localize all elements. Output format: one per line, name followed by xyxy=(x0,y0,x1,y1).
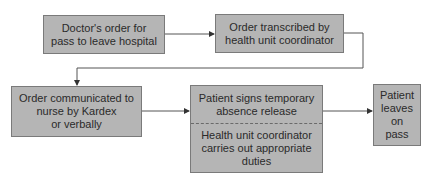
node-order-transcribed: Order transcribed by health unit coordin… xyxy=(215,14,344,53)
node-label: Doctor's order for pass to leave hospita… xyxy=(51,22,157,48)
node-label: Patient leaves on pass xyxy=(380,89,414,141)
node-label-top: Patient signs temporary absence release xyxy=(199,92,315,118)
node-section-bottom: Health unit coordinator carries out appr… xyxy=(191,124,322,172)
node-label: Order communicated to nurse by Kardex or… xyxy=(19,92,134,131)
node-patient-leaves: Patient leaves on pass xyxy=(373,84,421,146)
node-doctors-order: Doctor's order for pass to leave hospita… xyxy=(43,15,165,54)
node-patient-signs-release: Patient signs temporary absence release … xyxy=(190,85,323,173)
node-label: Order transcribed by health unit coordin… xyxy=(225,21,334,47)
node-label-bottom: Health unit coordinator carries out appr… xyxy=(201,129,312,168)
node-section-top: Patient signs temporary absence release xyxy=(191,86,322,123)
node-order-communicated: Order communicated to nurse by Kardex or… xyxy=(11,86,142,137)
